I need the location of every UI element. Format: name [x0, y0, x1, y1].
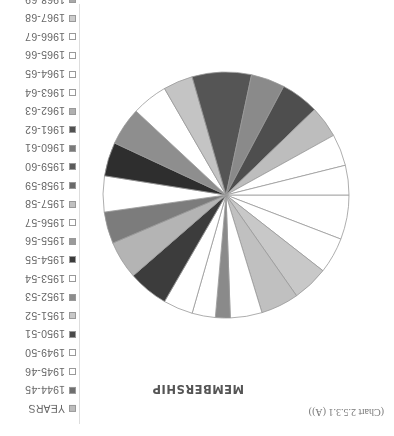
legend-swatch	[69, 201, 76, 208]
legend: YEARS1944-451945-461949-501950-511951-52…	[0, 0, 76, 418]
legend-item: 1964-65	[0, 65, 76, 84]
legend-swatch	[69, 294, 76, 301]
legend-swatch	[69, 368, 76, 375]
legend-divider	[79, 4, 80, 424]
legend-item: 1961-62	[0, 121, 76, 140]
legend-label: 1961-62	[25, 124, 65, 136]
legend-item: 1953-54	[0, 269, 76, 288]
legend-item: 1952-53	[0, 288, 76, 307]
legend-item: 1950-51	[0, 325, 76, 344]
legend-swatch	[69, 331, 76, 338]
legend-item: 1968-69	[0, 0, 76, 9]
legend-swatch	[69, 182, 76, 189]
legend-swatch	[69, 405, 76, 412]
legend-item: 1958-59	[0, 176, 76, 195]
legend-swatch	[69, 126, 76, 133]
legend-item: 1944-45	[0, 381, 76, 400]
legend-swatch	[69, 108, 76, 115]
legend-item: 1955-56	[0, 232, 76, 251]
legend-swatch	[69, 256, 76, 263]
legend-item: 1945-46	[0, 362, 76, 381]
legend-label: YEARS	[28, 403, 65, 415]
legend-label: 1944-45	[25, 384, 65, 396]
legend-label: 1957-58	[25, 198, 65, 210]
legend-label: 1945-46	[25, 366, 65, 378]
legend-item: 1959-60	[0, 158, 76, 177]
legend-swatch	[69, 387, 76, 394]
legend-swatch	[69, 349, 76, 356]
legend-label: 1950-51	[25, 328, 65, 340]
legend-item: 1956-57	[0, 213, 76, 232]
legend-swatch	[69, 15, 76, 22]
legend-label: 1966-67	[25, 31, 65, 43]
legend-item: 1967-68	[0, 9, 76, 28]
legend-label: 1964-65	[25, 68, 65, 80]
legend-swatch	[69, 238, 76, 245]
legend-item: 1960-61	[0, 139, 76, 158]
legend-label: 1954-55	[25, 254, 65, 266]
legend-item: 1957-58	[0, 195, 76, 214]
legend-swatch	[69, 312, 76, 319]
legend-swatch	[69, 275, 76, 282]
legend-label: 1953-54	[25, 273, 65, 285]
legend-label: 1951-52	[25, 310, 65, 322]
legend-label: 1960-61	[25, 142, 65, 154]
legend-swatch	[69, 52, 76, 59]
legend-item: 1963-64	[0, 83, 76, 102]
legend-item: 1966-67	[0, 28, 76, 47]
legend-label: 1956-57	[25, 217, 65, 229]
legend-label: 1952-53	[25, 291, 65, 303]
legend-label: 1963-64	[25, 87, 65, 99]
legend-label: 1967-68	[25, 12, 65, 24]
legend-swatch	[69, 0, 76, 3]
legend-label: 1958-59	[25, 180, 65, 192]
legend-item: YEARS	[0, 399, 76, 418]
legend-swatch	[69, 89, 76, 96]
legend-swatch	[69, 163, 76, 170]
legend-swatch	[69, 219, 76, 226]
legend-label: 1965-66	[25, 49, 65, 61]
pie-chart	[74, 0, 394, 436]
legend-item: 1965-66	[0, 46, 76, 65]
legend-item: 1954-55	[0, 251, 76, 270]
legend-item: 1962-63	[0, 102, 76, 121]
legend-label: 1968-69	[25, 0, 65, 6]
legend-swatch	[69, 145, 76, 152]
legend-label: 1949-50	[25, 347, 65, 359]
legend-label: 1955-56	[25, 235, 65, 247]
legend-label: 1962-63	[25, 105, 65, 117]
legend-label: 1959-60	[25, 161, 65, 173]
legend-swatch	[69, 33, 76, 40]
legend-item: 1951-52	[0, 306, 76, 325]
legend-item: 1949-50	[0, 344, 76, 363]
legend-swatch	[69, 71, 76, 78]
chart-page: (Chart 2.5.3.1 (A)) MEMBERSHIP YEARS1944…	[0, 0, 394, 436]
